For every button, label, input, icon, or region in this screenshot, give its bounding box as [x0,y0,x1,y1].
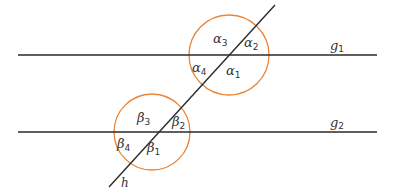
label-h: h [121,176,129,190]
label-g1: g1 [330,38,344,54]
line-h [109,5,275,187]
angle-beta3: β3 [136,110,150,127]
label-g2: g2 [330,115,344,131]
angle-alpha4: α4 [192,60,207,77]
angle-alpha3: α3 [213,31,228,48]
angle-alpha1: α1 [226,63,241,80]
diagram-canvas: g1 g2 h α3 α2 α4 α1 β3 β2 β4 β1 [0,0,393,191]
angle-beta4: β4 [116,136,131,153]
angle-beta1: β1 [146,140,160,157]
angle-alpha2: α2 [244,35,259,52]
angle-beta2: β2 [171,114,185,131]
